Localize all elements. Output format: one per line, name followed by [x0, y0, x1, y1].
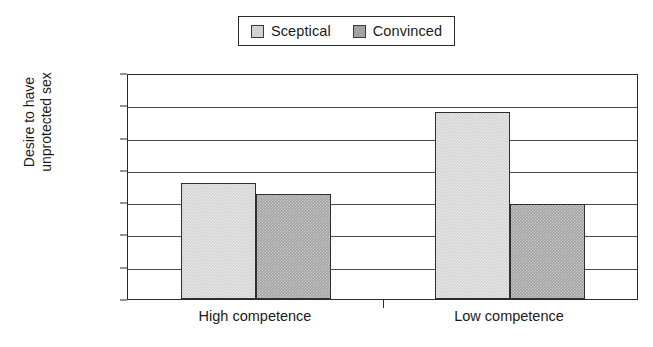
y-axis-title-line-2: unprotected sex [38, 22, 55, 222]
legend-label-convinced: Convinced [373, 24, 442, 39]
bar-sceptical-high-competence [181, 183, 256, 299]
x-axis-category-label: High competence [199, 309, 312, 325]
gridline [128, 140, 637, 141]
y-axis-tick-mark [120, 138, 127, 139]
y-axis-tick-mark [120, 106, 127, 107]
y-axis-tick-mark [120, 74, 127, 75]
bar-convinced-low-competence [510, 204, 585, 299]
legend-entry-convinced: Convinced [353, 24, 442, 39]
y-axis-title: Desire to have unprotected sex [21, 22, 55, 222]
gridline [128, 172, 637, 173]
legend-label-sceptical: Sceptical [271, 24, 331, 39]
bar-sceptical-low-competence [435, 112, 510, 299]
y-axis-tick-mark [120, 203, 127, 204]
y-axis-tick-mark [120, 267, 127, 268]
y-axis-tick-mark [120, 170, 127, 171]
x-axis-category-label: Low competence [454, 309, 564, 325]
y-axis-tick-mark [120, 300, 127, 301]
plot-area [127, 74, 638, 300]
legend-swatch-sceptical [251, 25, 264, 38]
gridline [128, 107, 637, 108]
y-axis-title-line-1: Desire to have [21, 22, 38, 222]
bar-chart-figure: Sceptical Convinced Desire to have unpro… [0, 0, 653, 347]
legend-entry-sceptical: Sceptical [251, 24, 331, 39]
legend-swatch-convinced [353, 25, 366, 38]
bar-convinced-high-competence [256, 194, 331, 299]
x-axis-tick-mark [383, 300, 384, 308]
chart-legend: Sceptical Convinced [238, 16, 455, 46]
y-axis-tick-mark [120, 235, 127, 236]
